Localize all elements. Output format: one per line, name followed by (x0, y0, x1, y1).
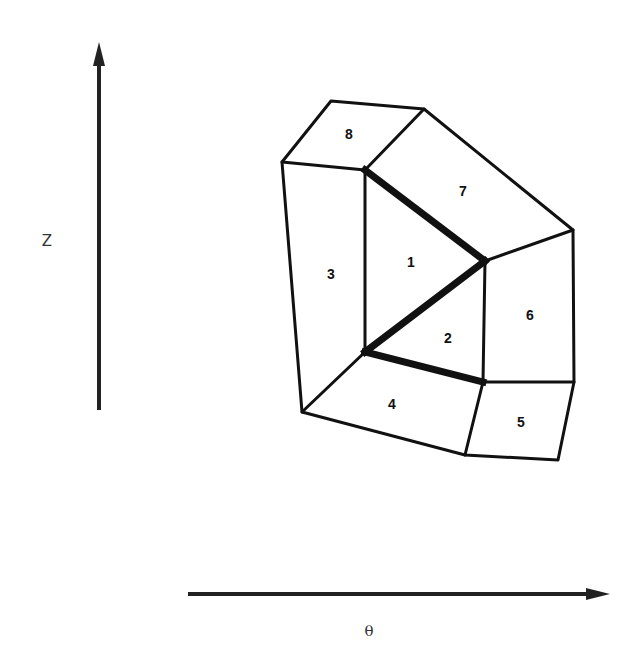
cell-label-6: 6 (526, 307, 534, 323)
edge-4-5 (465, 382, 483, 455)
cell-label-1: 1 (407, 254, 415, 270)
edge-8-7 (365, 109, 424, 170)
edge-2-6 (483, 261, 485, 382)
cell-label-8: 8 (345, 126, 353, 142)
cell-label-4: 4 (388, 396, 396, 412)
theta-axis-label: θ (364, 622, 373, 640)
outer-boundary (282, 101, 574, 460)
cell-label-2: 2 (444, 330, 452, 346)
bold-edge-1-7 (365, 170, 485, 261)
edge-8-3 (282, 162, 365, 170)
theta-axis-arrowhead (586, 588, 610, 600)
mesh-diagram: Z θ 8 7 1 3 6 2 4 5 (0, 0, 634, 666)
bold-edge-1-2 (365, 261, 485, 352)
z-axis-arrowhead (93, 42, 105, 66)
cell-label-5: 5 (517, 414, 525, 430)
z-axis-label: Z (42, 232, 52, 250)
bold-edge-2-4 (365, 352, 483, 382)
edge-3-4 (302, 352, 365, 412)
cell-label-3: 3 (327, 266, 335, 282)
cell-label-7: 7 (459, 183, 467, 199)
mesh-edges (282, 101, 574, 460)
edge-7-6 (485, 230, 573, 261)
